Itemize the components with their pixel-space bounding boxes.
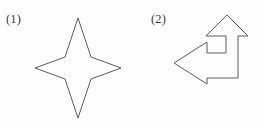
four-pointed-star-shape (35, 18, 121, 118)
shapes-canvas (0, 0, 261, 124)
figure-label-1: (1) (6, 13, 21, 26)
figure-panel: (1) (2) (0, 0, 261, 124)
bent-arrow-up-left-shape (174, 15, 248, 84)
figure-label-2: (2) (151, 13, 166, 26)
